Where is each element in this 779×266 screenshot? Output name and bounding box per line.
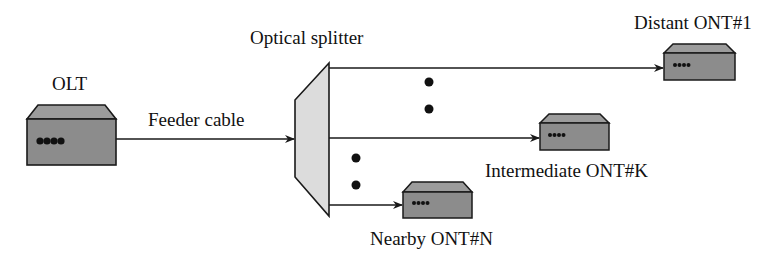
diagram-graphics (0, 0, 779, 266)
ellipsis-dots-upper (425, 78, 434, 114)
ontn-label: Nearby ONT#N (370, 229, 493, 248)
pon-diagram: OLT Feeder cable Optical splitter Distan… (0, 0, 779, 266)
ont1-device-icon (664, 44, 735, 80)
olt-device-icon (27, 105, 116, 165)
optical-splitter-icon (295, 63, 329, 216)
ont1-label: Distant ONT#1 (634, 13, 752, 32)
olt-label: OLT (52, 74, 87, 93)
ellipsis-dots-lower (352, 154, 361, 190)
ontn-device-icon (403, 182, 472, 218)
ontk-device-icon (540, 114, 609, 150)
feeder-cable-label: Feeder cable (148, 110, 245, 129)
optical-splitter-label: Optical splitter (250, 28, 363, 47)
ontk-label: Intermediate ONT#K (485, 161, 648, 180)
